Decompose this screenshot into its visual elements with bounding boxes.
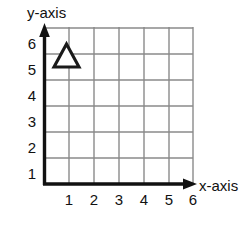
data-point-triangle-marker bbox=[54, 44, 79, 67]
y-tick-label-1: 1 bbox=[25, 166, 39, 181]
y-tick-label-2: 2 bbox=[25, 140, 39, 155]
x-tick-label-6: 6 bbox=[186, 192, 200, 207]
y-tick-label-4: 4 bbox=[25, 88, 39, 103]
y-tick-label-3: 3 bbox=[25, 114, 39, 129]
x-tick-label-3: 3 bbox=[112, 192, 126, 207]
x-tick-label-1: 1 bbox=[62, 192, 76, 207]
x-tick-label-5: 5 bbox=[162, 192, 176, 207]
y-tick-label-6: 6 bbox=[25, 36, 39, 51]
x-tick-label-4: 4 bbox=[137, 192, 151, 207]
coordinate-grid-chart: y-axis x-axis bbox=[0, 0, 248, 231]
x-axis-line bbox=[43, 178, 197, 189]
x-tick-label-2: 2 bbox=[87, 192, 101, 207]
y-axis-line bbox=[39, 23, 50, 185]
y-tick-label-5: 5 bbox=[25, 62, 39, 77]
